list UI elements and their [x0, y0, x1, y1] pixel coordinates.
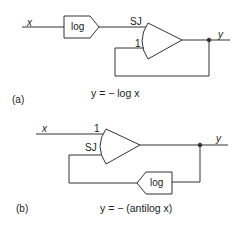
b-caption: (b) [16, 204, 28, 214]
a-amplifier [142, 23, 182, 59]
a-caption: (a) [12, 95, 24, 105]
b-feedback-to-log [172, 145, 200, 182]
b-equation: y = − (antilog x) [100, 203, 172, 214]
a-sj-label: SJ [130, 17, 142, 27]
a-input1-label: 1 [135, 39, 141, 49]
b-amplifier [100, 129, 140, 164]
b-input1-label: 1 [94, 124, 100, 134]
a-junction-dot [207, 38, 211, 42]
a-output-label: y [218, 30, 223, 40]
circuit-diagrams [0, 0, 250, 225]
b-input-label: x [42, 124, 47, 134]
a-equation: y = − log x [91, 88, 139, 99]
a-input-label: x [27, 18, 32, 28]
b-sj-label: SJ [85, 143, 97, 153]
b-output-label: y [216, 134, 221, 144]
b-log-block-label: log [150, 178, 163, 188]
a-log-block-label: log [71, 22, 84, 32]
